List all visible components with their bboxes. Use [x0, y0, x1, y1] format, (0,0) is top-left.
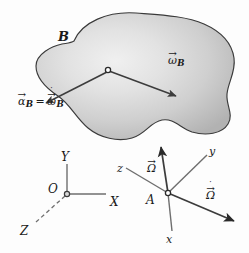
- omega-b-subscript: B: [177, 59, 184, 68]
- omega-glyph: ω: [47, 96, 56, 107]
- alpha-b-equation-label: → α B= ˙ → ω B: [18, 96, 64, 109]
- omega-glyph: ω: [168, 55, 177, 66]
- omega-b-subscript: B: [56, 100, 63, 109]
- figure-root: B → ω B → α B= ˙ → ω B Y X Z O z y x A →…: [0, 0, 249, 253]
- axis-label-z: z: [117, 163, 123, 174]
- axis-label-Z: Z: [20, 225, 28, 237]
- axis-Z-line: [36, 196, 65, 222]
- alpha-glyph: α: [18, 96, 25, 107]
- axis-x-line: [168, 193, 172, 231]
- omega-b-label: → ω B: [168, 55, 185, 68]
- body-reference-point-marker: [105, 67, 110, 72]
- omega-dot-frame-vector-arrow: [168, 193, 234, 221]
- equals-sign: =: [35, 95, 44, 108]
- origin-O-marker: [64, 191, 69, 196]
- omega-frame-label: → Ω: [147, 163, 156, 174]
- axis-y-line: [168, 155, 207, 193]
- omega-frame-vector-arrow: [161, 147, 168, 193]
- origin-label-O: O: [48, 183, 58, 195]
- capital-omega-glyph: Ω: [147, 163, 156, 174]
- moving-frame-axes: [126, 147, 234, 231]
- omega-dot-frame-label: ˙ → Ω: [206, 190, 215, 201]
- axis-label-y: y: [209, 146, 215, 157]
- body-label-b: B: [58, 30, 69, 43]
- origin-label-A: A: [146, 194, 155, 206]
- axis-label-X: X: [110, 196, 119, 208]
- figure-canvas: [0, 0, 249, 253]
- fixed-frame-axes: [36, 164, 106, 222]
- point-A-marker: [165, 190, 170, 195]
- axis-label-Y: Y: [61, 151, 69, 163]
- capital-omega-glyph: Ω: [206, 190, 215, 201]
- axis-label-x: x: [166, 234, 172, 245]
- alpha-b-subscript: B: [26, 100, 33, 109]
